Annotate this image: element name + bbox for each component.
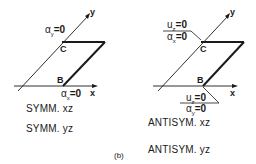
equals-zero: =0 (195, 92, 206, 103)
caption-antisym-yz: ANTISYM. yz (148, 145, 210, 155)
equals-zero: =0 (54, 24, 65, 35)
figure-label: (b) (114, 151, 124, 161)
point-b-label: B (57, 75, 64, 85)
caption-symm-yz: SYMM. yz (26, 124, 73, 134)
equals-zero: =0 (70, 88, 81, 99)
equals-zero: =0 (176, 31, 187, 42)
caption-antisym-xz: ANTISYM. xz (148, 118, 210, 128)
alpha-x-condition: αx=0 (61, 89, 81, 103)
point-b-label-right: B (197, 75, 204, 85)
point-c-label: C (60, 44, 67, 54)
x-axis-label-right: x (230, 88, 235, 98)
y-axis-label: y (90, 7, 95, 17)
structure-diagram (0, 0, 256, 164)
x-axis-label: x (90, 88, 95, 98)
equals-zero: =0 (195, 103, 206, 114)
y-axis-label-right: y (230, 7, 235, 17)
alpha-y-condition: αy=0 (45, 25, 65, 39)
equals-zero: =0 (176, 19, 187, 30)
point-c-label-right: C (200, 44, 207, 54)
alpha-y-condition-bottom: αy=0 (186, 104, 206, 118)
caption-symm-xz: SYMM. xz (26, 104, 73, 114)
alpha-x-condition-top: αx=0 (167, 32, 187, 46)
